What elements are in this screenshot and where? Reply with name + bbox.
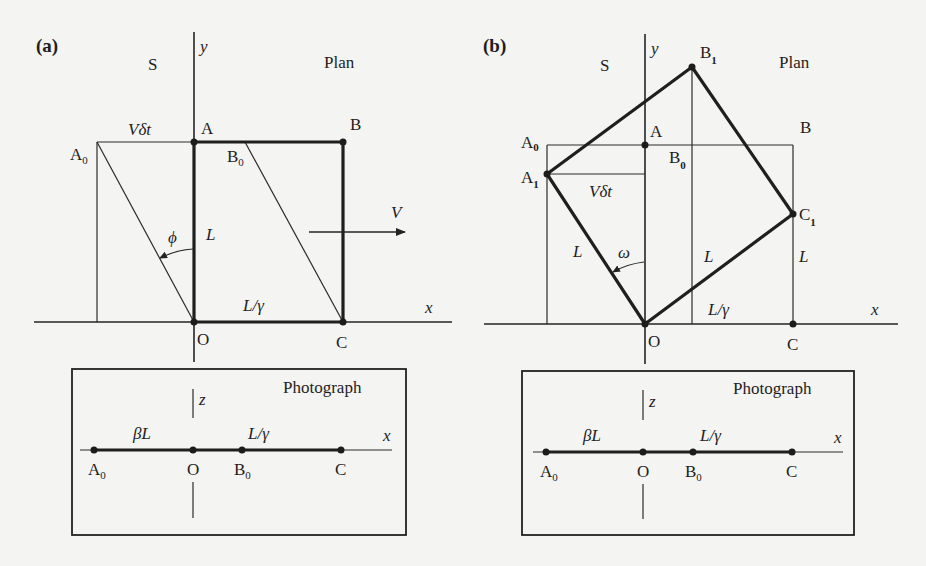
label-v-dt: Vδt [589,182,613,201]
photo-point-c [338,447,345,454]
z-axis-label: z [198,390,206,409]
label-l-gamma: L/γ [707,300,730,319]
label-l-right: L [798,247,808,266]
label-beta-l: βL [132,424,151,443]
label-b: B [350,115,361,134]
label-a1: A1 [521,168,539,190]
label-a: A [650,122,663,141]
photograph-a: Photograph z x βL L/γ A0 O B0 C [72,369,406,535]
photo-point-a0 [543,449,550,456]
label-a0: A0 [70,145,88,166]
label-b0: B0 [669,148,686,171]
photograph-title: Photograph [733,379,812,398]
label-a: A [201,119,214,138]
y-axis-label: y [649,39,659,58]
point-a [642,142,649,149]
label-a0: A0 [540,462,558,483]
photo-point-b0 [690,449,697,456]
label-l-left: L [572,242,582,261]
label-l-gamma: L/γ [699,426,722,445]
point-a1 [544,171,551,178]
panel-a-tag: (a) [36,35,58,57]
point-b [340,139,347,146]
label-o: O [197,330,209,349]
label-c1: C1 [799,205,816,228]
photo-point-c [789,449,796,456]
label-b0: B0 [227,147,244,168]
y-axis-label: y [198,37,208,56]
label-l-gamma: L/γ [242,296,265,315]
label-a0: A0 [521,133,539,153]
phi-arc-arrow [160,249,193,258]
photograph-b: Photograph z x βL L/γ A0 O B0 C [522,371,854,535]
panel-b: (b) S Plan y x A B O C A0 A1 B0 B1 C1 Vδ… [483,34,898,535]
point-c1 [790,211,797,218]
point-c [340,319,347,326]
relativistic-rotation-figure: (a) S Plan y x A B O C A0 B0 Vδt L L/γ ϕ [0,0,926,566]
photo-point-b0 [239,447,246,454]
label-c: C [786,462,797,481]
label-b1: B1 [700,43,717,66]
panel-a: (a) S Plan y x A B O C A0 B0 Vδt L L/γ ϕ [34,32,452,535]
photo-point-a0 [91,447,98,454]
label-v-dt: Vδt [128,120,152,139]
label-o: O [648,332,660,351]
point-b1 [689,64,696,71]
label-c: C [336,333,347,352]
label-l: L [205,225,215,244]
label-c: C [335,460,346,479]
label-b0: B0 [685,462,702,483]
x-axis-label: x [424,298,433,317]
label-a0: A0 [88,460,106,481]
label-beta-l: βL [582,426,601,445]
point-a [191,139,198,146]
frame-label-s: S [600,56,609,75]
label-l-mid: L [703,247,713,266]
point-c [790,321,797,328]
photo-x-axis-label: x [382,426,391,445]
panel-b-tag: (b) [483,35,506,57]
label-omega: ω [618,243,630,262]
omega-arc-arrow [613,262,644,272]
photo-x-axis-label: x [833,428,842,447]
x-axis-label: x [870,300,879,319]
label-phi: ϕ [168,228,177,247]
view-label-plan: Plan [779,53,810,72]
label-o: O [187,460,199,479]
label-l-gamma: L/γ [247,424,270,443]
rotated-square [547,67,793,324]
photo-point-o [640,449,647,456]
label-b: B [800,118,811,137]
frame-label-s: S [148,55,157,74]
z-axis-label: z [648,392,656,411]
label-c: C [787,335,798,354]
a0-o-slant-line [97,142,194,322]
view-label-plan: Plan [324,53,355,72]
point-o [191,319,198,326]
label-b0: B0 [234,460,251,481]
point-o [642,321,649,328]
photo-point-o [190,447,197,454]
photograph-title: Photograph [283,378,362,397]
label-v: V [391,203,404,222]
label-o: O [637,462,649,481]
